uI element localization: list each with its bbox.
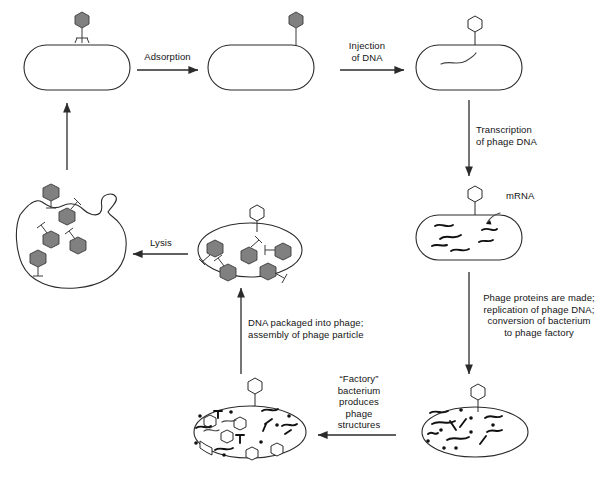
stage-assembling-bacterium — [194, 378, 306, 460]
stage-lysed-bacterium — [16, 184, 126, 288]
label-adsorption: Adsorption — [131, 51, 204, 63]
label-dna-packaging: DNA packaged into phage; assembly of pha… — [248, 317, 408, 340]
stage-injected-bacterium — [416, 16, 522, 90]
label-mrna: mRNA — [506, 190, 556, 202]
free-phage-particle — [75, 12, 89, 43]
adsorbed-phage-particle — [289, 12, 303, 45]
label-factory-bacterium: “Factory” bacterium produces phage struc… — [320, 373, 398, 431]
stage-free-bacterium — [24, 45, 130, 90]
diagram-canvas — [0, 0, 609, 478]
label-phage-proteins: Phage proteins are made; replication of … — [472, 292, 606, 338]
phage-lytic-cycle-diagram: Adsorption Injection of DNA Transcriptio… — [0, 0, 609, 478]
stage-factory-bacterium — [422, 384, 528, 457]
stage-adsorbed-bacterium — [208, 45, 314, 90]
label-transcription: Transcription of phage DNA — [476, 124, 596, 147]
label-lysis: Lysis — [133, 237, 189, 249]
stage-packaged-bacterium — [198, 205, 302, 283]
label-injection: Injection of DNA — [331, 40, 403, 63]
